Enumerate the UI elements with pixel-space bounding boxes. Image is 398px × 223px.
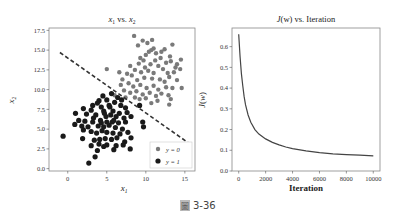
point-class-1 [89, 143, 94, 148]
point-class-0 [175, 78, 179, 82]
point-class-1 [118, 103, 123, 108]
point-class-1 [81, 106, 86, 111]
point-class-1 [97, 137, 102, 142]
x-tick-label: 0 [66, 175, 69, 182]
point-class-0 [133, 68, 137, 72]
point-class-0 [150, 76, 154, 80]
point-class-0 [173, 65, 177, 69]
point-class-0 [156, 87, 160, 91]
point-class-1 [120, 127, 125, 132]
point-class-1 [112, 100, 117, 105]
point-class-0 [180, 86, 184, 90]
point-class-0 [151, 71, 155, 75]
point-class-1 [102, 111, 107, 116]
point-class-0 [167, 75, 171, 79]
point-class-0 [139, 70, 143, 74]
point-class-0 [138, 83, 142, 87]
point-class-1 [128, 135, 133, 140]
y-tick-label: 5.0 [37, 125, 45, 132]
x-tick-label: 15 [182, 175, 189, 182]
point-class-1 [81, 127, 86, 132]
point-class-0 [144, 96, 148, 100]
y-tick-label: 0.3 [220, 105, 228, 112]
cost-xlabel: Iteration [289, 183, 323, 193]
point-class-1 [89, 129, 94, 134]
point-class-0 [167, 102, 171, 106]
x-tick-label: 8000 [340, 175, 353, 182]
x-tick-label: 10000 [365, 175, 381, 182]
point-class-1 [90, 103, 95, 108]
legend-label-y0: y = 0 [165, 146, 181, 153]
y-tick-label: 10.0 [34, 86, 45, 93]
point-class-0 [164, 61, 168, 65]
point-class-0 [144, 53, 148, 57]
point-class-1 [93, 154, 98, 159]
x-tick-label: 0 [237, 175, 240, 182]
point-class-0 [143, 65, 147, 69]
point-class-0 [137, 97, 141, 101]
point-class-1 [114, 135, 119, 140]
point-class-0 [158, 77, 162, 81]
point-class-1 [107, 104, 112, 109]
point-class-0 [131, 84, 135, 88]
point-class-0 [145, 41, 149, 45]
point-class-0 [141, 38, 145, 42]
point-class-0 [169, 97, 173, 101]
point-class-0 [169, 59, 173, 63]
caption-number: 3-36 [193, 200, 216, 211]
point-class-0 [151, 84, 155, 88]
point-class-0 [164, 85, 168, 89]
point-class-0 [126, 81, 130, 85]
point-class-0 [132, 34, 136, 38]
point-class-1 [76, 118, 81, 123]
y-tick-label: 0.5 [220, 64, 228, 71]
scatter-xlabel: x1 [120, 183, 128, 194]
point-class-1 [100, 93, 105, 98]
point-class-1 [140, 119, 145, 124]
point-class-1 [82, 119, 87, 124]
point-class-1 [103, 136, 108, 141]
point-class-0 [154, 94, 158, 98]
point-class-1 [113, 125, 118, 130]
point-class-1 [109, 137, 114, 142]
point-class-1 [111, 118, 116, 123]
point-class-0 [141, 58, 145, 62]
figure-caption: 圖3-36 [180, 200, 216, 211]
point-class-1 [121, 142, 126, 147]
point-class-0 [148, 91, 152, 95]
scatter-title: x1 vs. x2 [108, 14, 136, 25]
point-class-0 [150, 38, 154, 42]
point-class-0 [170, 86, 174, 90]
scatter-chart: x1 vs. x2 0.02.55.07.510.012.515.017.5 0… [6, 14, 195, 194]
y-tick-label: 15.0 [34, 46, 45, 53]
point-class-0 [159, 91, 163, 95]
point-class-0 [134, 89, 138, 93]
point-class-0 [156, 64, 160, 68]
legend-label-y1: y = 1 [165, 158, 180, 165]
y-tick-label: 0.2 [220, 126, 228, 133]
point-class-1 [109, 91, 114, 96]
legend-marker-y0 [156, 147, 160, 151]
point-class-0 [149, 101, 153, 105]
point-class-1 [96, 142, 101, 147]
point-class-1 [86, 161, 91, 166]
point-class-0 [125, 72, 129, 76]
legend-marker-y1 [155, 158, 160, 163]
point-class-0 [162, 47, 166, 51]
point-class-1 [141, 124, 146, 129]
point-class-0 [149, 48, 153, 52]
point-class-0 [170, 42, 174, 46]
point-class-0 [119, 83, 123, 87]
point-class-1 [91, 116, 96, 121]
point-class-1 [108, 112, 113, 117]
y-tick-label: 0.1 [220, 146, 228, 153]
point-class-0 [166, 71, 170, 75]
point-class-0 [135, 78, 139, 82]
point-class-0 [166, 93, 170, 97]
point-class-0 [136, 43, 140, 47]
point-class-0 [158, 56, 162, 60]
point-class-0 [172, 70, 176, 74]
point-class-0 [178, 67, 182, 71]
point-class-1 [94, 131, 99, 136]
point-class-1 [85, 124, 90, 129]
